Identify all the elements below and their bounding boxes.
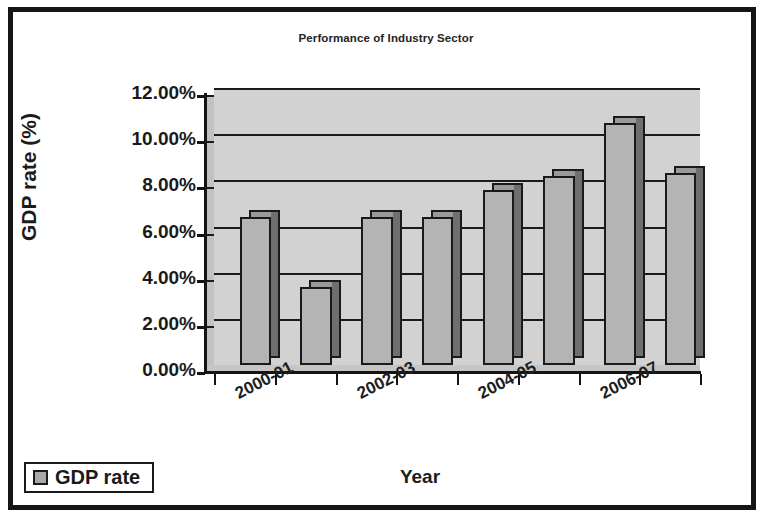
y-axis-title: GDP rate (%) [17, 82, 41, 272]
chart-figure: Performance of Industry Sector GDP rate … [0, 0, 772, 523]
bar [543, 176, 575, 365]
bar-front-face [422, 217, 454, 365]
bar-front-face [300, 287, 332, 365]
bar [361, 217, 393, 365]
x-axis-tick-mark [579, 374, 581, 385]
y-axis-tick-mark [197, 280, 205, 283]
bar-front-face [240, 217, 272, 365]
legend-swatch-gdp-rate [33, 470, 48, 485]
x-axis-tick-mark [214, 374, 216, 385]
bar-front-face [543, 176, 575, 365]
gridline [214, 88, 700, 90]
plot-area [205, 88, 700, 372]
x-axis-tick-mark [457, 374, 459, 385]
bar [240, 217, 272, 365]
legend-label-gdp-rate: GDP rate [55, 467, 140, 487]
bar [300, 287, 332, 365]
bar-side-face [332, 280, 341, 358]
bar-front-face [483, 190, 515, 365]
bar-front-face [604, 123, 636, 365]
x-axis-tick-mark [336, 374, 338, 385]
y-axis-tick-mark [197, 234, 205, 237]
y-axis-tick-label: 8.00% [96, 174, 196, 196]
y-axis-tick-label: 0.00% [96, 359, 196, 381]
x-axis-tick-mark [700, 374, 702, 385]
y-axis-tick-label: 10.00% [96, 128, 196, 150]
y-axis-tick-label: 4.00% [96, 267, 196, 289]
y-axis-tick-mark [197, 326, 205, 329]
x-axis-title: Year [330, 466, 510, 488]
chart-title: Performance of Industry Sector [0, 32, 772, 44]
chart-legend: GDP rate [24, 462, 154, 493]
bar [483, 190, 515, 365]
bar-side-face [393, 210, 402, 358]
bar-side-face [453, 210, 462, 358]
bar-front-face [665, 173, 697, 365]
y-axis-tick-mark [197, 187, 205, 190]
bar [665, 173, 697, 365]
bar-side-face [575, 169, 584, 358]
y-axis-tick-mark [197, 141, 205, 144]
bar [422, 217, 454, 365]
bar-side-face [271, 210, 280, 358]
bar [604, 123, 636, 365]
y-axis-tick-label: 6.00% [96, 221, 196, 243]
y-axis-tick-mark [197, 95, 205, 98]
bar-side-face [514, 183, 523, 358]
y-axis-tick-label: 12.00% [96, 82, 196, 104]
y-axis-tick-mark [197, 372, 205, 375]
y-axis-tick-label: 2.00% [96, 313, 196, 335]
bar-front-face [361, 217, 393, 365]
bar-side-face [636, 116, 645, 358]
bar-side-face [696, 166, 705, 358]
